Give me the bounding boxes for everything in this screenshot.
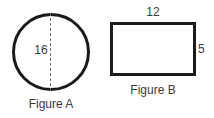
geometry-figures-diagram: 16 Figure A 12 5 Figure B xyxy=(0,0,214,118)
figure-a-group: 16 Figure A xyxy=(0,0,104,118)
circle-shape xyxy=(12,13,90,91)
rectangle-height-label: 5 xyxy=(198,42,212,56)
diameter-dashed-line xyxy=(50,13,51,91)
figure-a-caption: Figure A xyxy=(0,97,102,111)
figure-b-caption: Figure B xyxy=(106,83,200,97)
rectangle-shape xyxy=(110,22,196,76)
rectangle-width-label: 12 xyxy=(133,5,173,19)
figure-b-group: 12 5 Figure B xyxy=(100,0,214,118)
circle-diameter-label: 16 xyxy=(28,43,48,57)
